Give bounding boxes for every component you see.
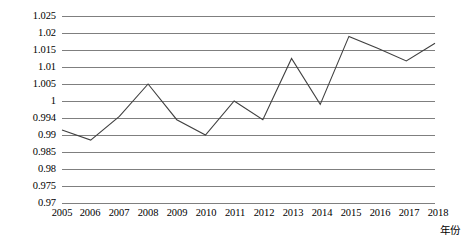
y-axis-tick-label: 1.015 — [0, 45, 56, 56]
x-axis-tick-label: 2017 — [395, 207, 423, 219]
x-axis-tick-label: 2009 — [163, 207, 191, 219]
y-axis-tick-label: 1.02 — [0, 28, 56, 39]
data-series-line — [62, 16, 435, 203]
x-axis-tick-label: 2008 — [134, 207, 162, 219]
x-axis-tick-label: 2018 — [424, 207, 452, 219]
x-axis-tick-label: 2011 — [221, 207, 249, 219]
x-axis-title: 年份 — [440, 224, 460, 236]
y-axis-tick-label: 0.99 — [0, 130, 56, 141]
x-axis-tick-label: 2006 — [76, 207, 104, 219]
y-axis-tick-label: 1.025 — [0, 11, 56, 22]
y-axis-tick-label: 0.98 — [0, 164, 56, 175]
y-axis-tick-label: 0.985 — [0, 147, 56, 158]
plot-area — [62, 16, 435, 203]
y-axis-tick-label: 0.975 — [0, 181, 56, 192]
y-axis-tick-label: 1 — [0, 96, 56, 107]
x-axis-tick-label: 2007 — [105, 207, 133, 219]
x-axis-tick-label: 2013 — [279, 207, 307, 219]
x-axis-tick-label: 2016 — [366, 207, 394, 219]
x-axis: 2005 2006 2007 2008 2009 2010 2011 2012 … — [0, 207, 468, 223]
x-axis-tick-label: 2012 — [250, 207, 278, 219]
line-chart: 1.025 1.02 1.015 1.01 1.005 1 0.994 0.99… — [0, 0, 468, 245]
gridline — [62, 203, 435, 204]
x-axis-tick-label: 2014 — [308, 207, 336, 219]
x-axis-tick-label: 2015 — [337, 207, 365, 219]
x-axis-tick-label: 2005 — [48, 207, 76, 219]
x-axis-tick-label: 2010 — [192, 207, 220, 219]
y-axis-tick-label: 1.005 — [0, 79, 56, 90]
y-axis-tick-label: 0.994 — [0, 113, 56, 124]
y-axis-tick-label: 1.01 — [0, 62, 56, 73]
